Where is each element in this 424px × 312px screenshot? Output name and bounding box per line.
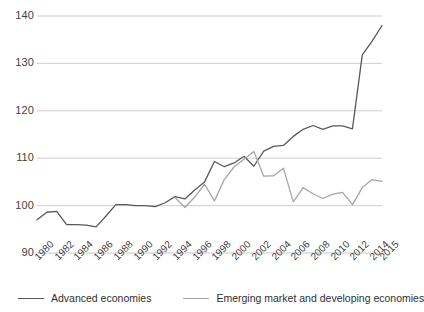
legend-line-swatch-advanced-economies [18, 298, 44, 299]
chart-legend: Advanced economies Emerging market and d… [0, 288, 391, 308]
y-axis-tick-110: 110 [2, 152, 34, 163]
y-axis-tick-140: 140 [2, 10, 34, 21]
y-axis-tick-90: 90 [2, 247, 34, 258]
legend-label-emerging-market: Emerging market and developing economies [216, 292, 424, 304]
x-axis: 1980198219841986198819901992199419961998… [37, 255, 387, 289]
legend-entry-emerging-market: Emerging market and developing economies [183, 292, 424, 304]
y-axis-tick-120: 120 [2, 105, 34, 116]
legend-line-swatch-emerging-market [183, 298, 209, 299]
y-axis-tick-100: 100 [2, 200, 34, 211]
legend-label-advanced-economies: Advanced economies [51, 292, 151, 304]
series-lines [37, 16, 382, 253]
y-axis: 90100110120130140 [0, 0, 34, 270]
plot-area [37, 16, 382, 253]
y-axis-tick-130: 130 [2, 57, 34, 68]
series-line-0 [37, 25, 382, 226]
legend-entry-advanced-economies: Advanced economies [18, 292, 151, 304]
